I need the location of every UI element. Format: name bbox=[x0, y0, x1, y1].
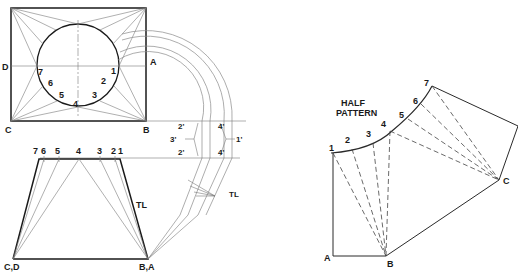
elev-point-1: 1 bbox=[118, 146, 123, 156]
elbow-label-4prime-top: 4' bbox=[218, 122, 224, 131]
elev-label-BA: B,A bbox=[139, 262, 155, 272]
pattern-label-C: C bbox=[503, 176, 510, 186]
elbow-label-4prime-bottom: 4' bbox=[218, 148, 224, 157]
plan-view: D A C B 1 2 3 4 5 6 7 bbox=[2, 8, 157, 135]
elev-label-CD: C,D bbox=[4, 262, 20, 272]
label-C: C bbox=[5, 125, 12, 135]
elevation-outline bbox=[13, 159, 148, 259]
elbow-tl-label: TL bbox=[229, 190, 239, 199]
elbow-label-2prime-bottom: 2' bbox=[178, 148, 184, 157]
half-pattern-title-1: HALF bbox=[341, 98, 365, 108]
elev-point-3: 3 bbox=[97, 146, 102, 156]
elbow-label-2prime-top: 2' bbox=[178, 122, 184, 131]
circle-point-1: 1 bbox=[111, 66, 116, 76]
label-D: D bbox=[2, 62, 9, 72]
circle-point-5: 5 bbox=[59, 90, 64, 100]
circle-point-3: 3 bbox=[92, 90, 97, 100]
pattern-point-1: 1 bbox=[329, 143, 334, 153]
elbow-label-3prime: 3' bbox=[170, 135, 176, 144]
pattern-point-3: 3 bbox=[366, 129, 371, 139]
elbow-arcs bbox=[40, 31, 246, 215]
pattern-label-B: B bbox=[387, 259, 394, 269]
pattern-point-6: 6 bbox=[413, 96, 418, 106]
elbow-label-1prime: 1' bbox=[236, 135, 242, 144]
elev-point-7: 7 bbox=[33, 146, 38, 156]
plan-triangulation-lines bbox=[11, 8, 146, 121]
elev-point-6: 6 bbox=[41, 146, 46, 156]
elev-tl-label: TL bbox=[136, 200, 147, 210]
circle-point-6: 6 bbox=[48, 78, 53, 88]
circle-point-4: 4 bbox=[73, 99, 78, 109]
circle-point-2: 2 bbox=[101, 76, 106, 86]
elev-point-2: 2 bbox=[111, 146, 116, 156]
pattern-point-5: 5 bbox=[399, 110, 404, 120]
elev-point-4: 4 bbox=[76, 146, 81, 156]
pattern-point-4: 4 bbox=[381, 119, 386, 129]
label-B: B bbox=[143, 125, 150, 135]
circle-point-7: 7 bbox=[38, 67, 43, 77]
pattern-point-2: 2 bbox=[345, 135, 350, 145]
pattern-label-A: A bbox=[324, 253, 331, 263]
pattern-point-7: 7 bbox=[424, 78, 429, 88]
plan-square bbox=[11, 8, 146, 121]
label-A: A bbox=[150, 57, 157, 67]
elevation-view bbox=[13, 156, 198, 259]
half-pattern-title-2: PATTERN bbox=[336, 108, 377, 118]
elev-point-5: 5 bbox=[55, 146, 60, 156]
technical-drawing: D A C B 1 2 3 4 5 6 7 2' 3' 2' bbox=[0, 0, 518, 274]
